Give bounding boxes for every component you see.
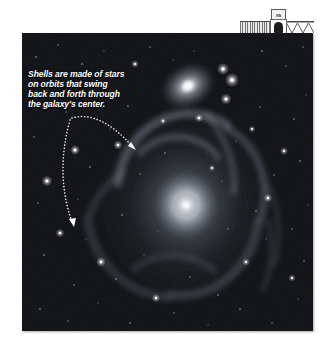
film-grain (22, 33, 313, 331)
sky-field (22, 33, 313, 331)
band-marker-shape (274, 22, 283, 33)
deep-sky-photograph (22, 33, 313, 331)
figure-root: NS (0, 0, 335, 353)
band-badge-label: NS (276, 14, 281, 18)
